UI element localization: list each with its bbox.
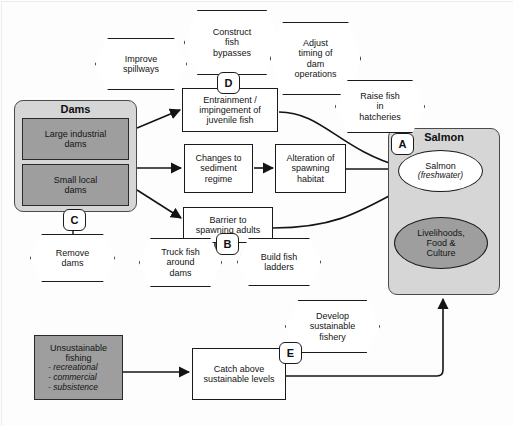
node-unsustainable-fishing[interactable]: Unsustainable fishing - recreational - c… (34, 335, 123, 400)
node-raise-fish-in-hatcheries[interactable]: Raise fish in hatcheries (335, 80, 425, 133)
node-build-fish-ladders[interactable]: Build fish ladders (237, 238, 321, 286)
marker-c[interactable]: C (63, 209, 86, 231)
node-truck-fish-around-dams[interactable]: Truck fish around dams (139, 238, 222, 287)
edge-barrier-to-salmon (273, 190, 400, 228)
marker-d[interactable]: D (217, 72, 240, 94)
truck-fish-label: Truck fish around dams (139, 238, 222, 287)
improve-spillways-label: Improve spillways (95, 38, 187, 90)
node-large-industrial-dams[interactable]: Large industrial dams (22, 118, 129, 160)
node-unsustainable-fishing-label: Unsustainable fishing (50, 343, 107, 364)
construct-fish-bypasses-label: Construct fish bypasses (184, 10, 280, 75)
node-small-local-dams[interactable]: Small local dams (22, 164, 129, 206)
node-entrainment-impingement[interactable]: Entrainment / impingement of juvenile fi… (182, 88, 278, 132)
edge-dams-to-barrier (137, 190, 181, 218)
diagram-canvas: Dams Large industrial dams Small local d… (0, 0, 513, 426)
node-remove-dams[interactable]: Remove dams (30, 234, 115, 282)
node-catch-above-sustainable-levels[interactable]: Catch above sustainable levels (192, 348, 286, 400)
marker-a[interactable]: A (391, 133, 414, 155)
node-salmon-freshwater[interactable]: Salmon (freshwater) (398, 150, 483, 192)
raise-fish-hatcheries-label: Raise fish in hatcheries (335, 80, 425, 133)
bullet-subsistence: - subsistence (48, 383, 98, 393)
build-fish-ladders-label: Build fish ladders (237, 238, 321, 286)
marker-e[interactable]: E (279, 342, 302, 364)
node-changes-to-sediment-regime[interactable]: Changes to sediment regime (184, 144, 253, 193)
remove-dams-label: Remove dams (30, 234, 115, 282)
marker-b[interactable]: B (216, 233, 239, 255)
group-dams-title: Dams (14, 103, 137, 115)
node-livelihoods-food-culture[interactable]: Livelihoods, Food & Culture (394, 217, 488, 269)
node-salmon-freshwater-sublabel: (freshwater) (418, 171, 463, 181)
node-improve-spillways[interactable]: Improve spillways (95, 38, 187, 90)
node-construct-fish-bypasses[interactable]: Construct fish bypasses (184, 10, 280, 75)
node-alteration-of-spawning-habitat[interactable]: Alteration of spawning habitat (275, 144, 346, 193)
edge-dams-to-entrainment (137, 110, 180, 128)
